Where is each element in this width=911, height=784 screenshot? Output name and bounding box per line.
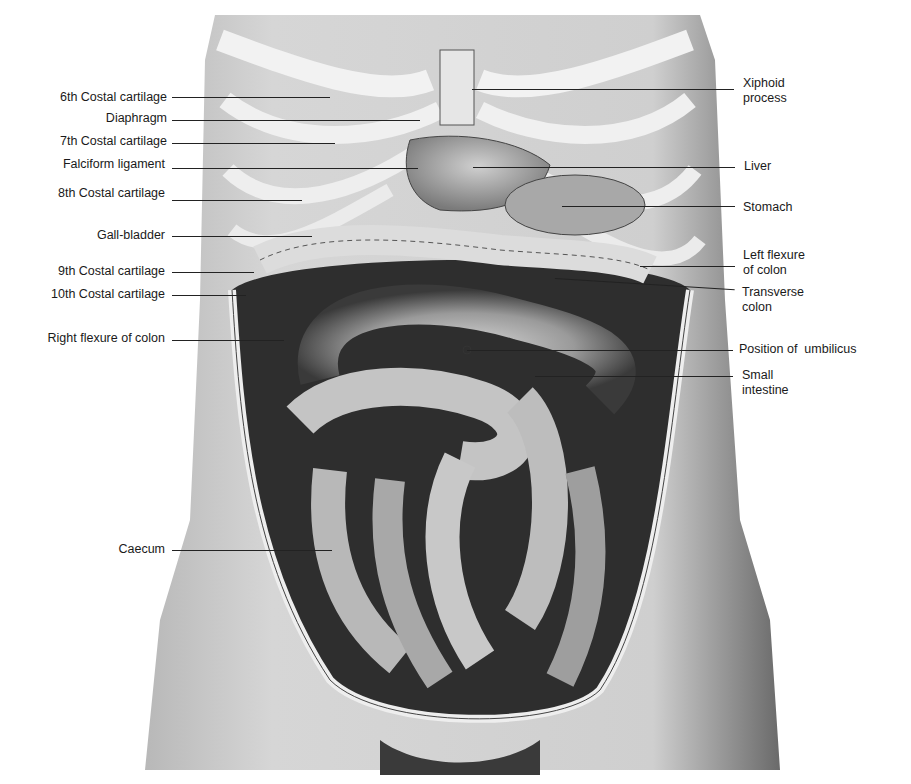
- leader-line-falciform-ligament: [172, 168, 418, 169]
- label-8th-costal-cartilage: 8th Costal cartilage: [58, 186, 165, 201]
- label-xiphoid-process: Xiphoid process: [743, 76, 787, 106]
- leader-line-xiphoid-process: [472, 89, 734, 90]
- label-line: Liver: [744, 159, 771, 174]
- leader-line-7th-costal-cartilage: [172, 143, 335, 144]
- leader-line-diaphragm: [172, 120, 420, 121]
- label-right-flexure-of-colon: Right flexure of colon: [48, 331, 165, 346]
- leader-line-caecum: [172, 550, 332, 551]
- leader-line-10th-costal-cartilage: [172, 295, 246, 296]
- leader-line-gall-bladder: [172, 236, 312, 237]
- leader-line-position-of-umbilicus: [467, 350, 733, 351]
- label-liver: Liver: [744, 159, 771, 174]
- label-line: intestine: [742, 383, 789, 398]
- label-line: colon: [742, 300, 804, 315]
- label-line: Xiphoid: [743, 76, 787, 91]
- anatomy-figure: 6th Costal cartilage Diaphragm 7th Costa…: [0, 0, 911, 784]
- label-diaphragm: Diaphragm: [106, 111, 167, 126]
- label-line: Stomach: [743, 200, 792, 215]
- label-line: Small: [742, 368, 789, 383]
- label-7th-costal-cartilage: 7th Costal cartilage: [60, 134, 167, 149]
- leader-line-left-flexure-of-colon: [640, 266, 735, 267]
- label-6th-costal-cartilage: 6th Costal cartilage: [60, 90, 167, 105]
- label-line: Left flexure: [743, 248, 805, 263]
- leader-line-liver: [473, 167, 735, 168]
- label-line: Transverse: [742, 285, 804, 300]
- leader-line-right-flexure-of-colon: [172, 340, 284, 341]
- leader-line-9th-costal-cartilage: [172, 272, 254, 273]
- label-line: process: [743, 91, 787, 106]
- label-small-intestine: Small intestine: [742, 368, 789, 398]
- label-10th-costal-cartilage: 10th Costal cartilage: [51, 287, 165, 302]
- label-falciform-ligament: Falciform ligament: [63, 157, 165, 172]
- label-gall-bladder: Gall-bladder: [97, 228, 165, 243]
- label-caecum: Caecum: [118, 542, 165, 557]
- leader-line-6th-costal-cartilage: [172, 97, 330, 98]
- label-stomach: Stomach: [743, 200, 792, 215]
- label-9th-costal-cartilage: 9th Costal cartilage: [58, 264, 165, 279]
- stomach-shape: [505, 175, 645, 235]
- label-line: of colon: [743, 263, 805, 278]
- leader-line-stomach: [562, 206, 735, 207]
- label-position-of-umbilicus: Position of umbilicus: [739, 342, 856, 357]
- label-left-flexure-of-colon: Left flexure of colon: [743, 248, 805, 278]
- label-line: Position of umbilicus: [739, 342, 856, 357]
- label-transverse-colon: Transverse colon: [742, 285, 804, 315]
- leader-line-8th-costal-cartilage: [172, 200, 302, 201]
- leader-line-small-intestine: [535, 376, 733, 377]
